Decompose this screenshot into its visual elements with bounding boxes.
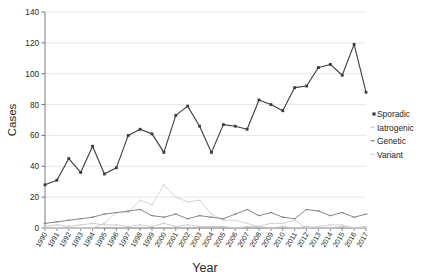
series-line-genetic [45, 209, 366, 223]
data-point-sporadic-2001 [174, 114, 177, 117]
y-tick-label-140: 140 [25, 8, 39, 17]
data-point-sporadic-2000 [162, 151, 165, 154]
data-point-sporadic-1999 [151, 132, 154, 135]
y-tick-label-80: 80 [30, 101, 40, 110]
legend-marker-sporadic [372, 112, 375, 115]
data-point-sporadic-2013 [317, 66, 320, 69]
data-point-sporadic-1996 [115, 166, 118, 169]
series-line-variant [45, 185, 366, 228]
legend-label-genetic: Genetic [377, 136, 406, 146]
data-point-sporadic-2004 [210, 151, 213, 154]
data-point-sporadic-1991 [55, 179, 58, 182]
data-point-sporadic-2016 [353, 43, 356, 46]
y-tick-label-0: 0 [34, 224, 39, 233]
data-point-sporadic-2017 [365, 91, 368, 94]
data-point-sporadic-1998 [139, 128, 142, 131]
data-point-sporadic-2009 [269, 103, 272, 106]
y-tick-label-60: 60 [30, 131, 40, 140]
cjd-cases-line-chart: 020406080100120140 199019911992199319941… [0, 0, 434, 280]
data-point-sporadic-2005 [222, 123, 225, 126]
data-point-sporadic-1994 [91, 145, 94, 148]
y-tick-label-100: 100 [25, 70, 39, 79]
data-point-sporadic-2012 [305, 85, 308, 88]
data-point-sporadic-1993 [79, 171, 82, 174]
y-tick-label-20: 20 [30, 193, 40, 202]
x-tick-labels-group: 1990199119921993199419951996199719981999… [33, 228, 370, 249]
data-point-sporadic-1992 [67, 157, 70, 160]
data-point-sporadic-2008 [258, 99, 261, 102]
gridlines-group [45, 12, 366, 228]
legend-label-iatrogenic: Iatrogenic [377, 123, 414, 133]
data-point-sporadic-1995 [103, 173, 106, 176]
data-point-sporadic-1997 [127, 134, 130, 137]
data-point-sporadic-2010 [281, 109, 284, 112]
data-point-sporadic-2014 [329, 63, 332, 66]
y-tick-label-120: 120 [25, 39, 39, 48]
x-tick-label-2017: 2017 [354, 231, 370, 249]
axes-group [45, 12, 366, 228]
y-axis-title: Cases [6, 103, 18, 136]
x-tick-label-2010: 2010 [271, 231, 287, 249]
data-point-sporadic-1990 [44, 183, 47, 186]
data-point-sporadic-2015 [341, 74, 344, 77]
series-line-sporadic [45, 44, 366, 184]
data-point-sporadic-2011 [293, 86, 296, 89]
x-axis-title: Year [192, 261, 217, 275]
data-point-sporadic-2007 [246, 128, 249, 131]
y-tick-label-40: 40 [30, 162, 40, 171]
legend-label-sporadic: Sporadic [377, 109, 410, 119]
legend: SporadicIatrogenicGeneticVariant [371, 109, 414, 160]
legend-label-variant: Variant [377, 150, 404, 160]
chart-canvas: 020406080100120140 199019911992199319941… [0, 0, 434, 280]
data-point-sporadic-2003 [198, 125, 201, 128]
data-point-sporadic-2002 [186, 105, 189, 108]
data-point-sporadic-2006 [234, 125, 237, 128]
y-tick-labels-group: 020406080100120140 [25, 8, 45, 233]
